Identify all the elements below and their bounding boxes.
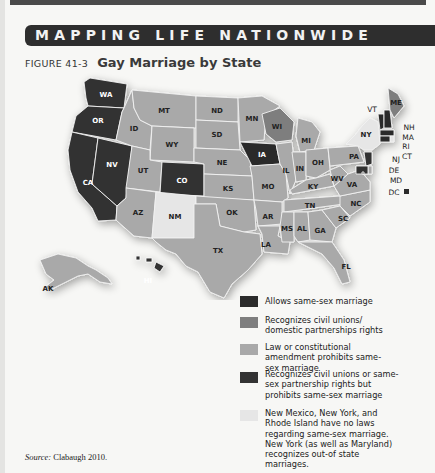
state-label-il: IL <box>282 167 290 175</box>
state-label-mt: MT <box>158 107 170 115</box>
state-label-or: OR <box>92 117 104 125</box>
state-label-ny: NY <box>361 131 373 139</box>
state-label-nj: NJ <box>392 155 400 164</box>
state-label-ca: CA <box>83 179 94 187</box>
state-ma <box>380 130 394 136</box>
state-ct <box>380 136 390 142</box>
state-label-mi: MI <box>301 137 311 145</box>
legend-label: Allows same-sex marriage <box>265 296 430 306</box>
state-label-wi: WI <box>272 123 282 131</box>
state-label-wv: WV <box>330 175 344 183</box>
top-bar <box>10 0 426 5</box>
figure-number: FIGURE 41-3 <box>25 58 88 69</box>
state-label-id: ID <box>130 125 139 133</box>
state-label-mo: MO <box>262 183 275 191</box>
legend-swatch <box>240 344 258 355</box>
state-ri <box>390 136 394 142</box>
state-label-fl: FL <box>341 263 351 271</box>
state-label-sc: SC <box>338 215 348 223</box>
dc-marker <box>404 189 409 194</box>
state-label-ok: OK <box>226 209 238 217</box>
state-label-az: AZ <box>133 209 144 217</box>
state-label-ky: KY <box>308 183 319 191</box>
state-label-ia: IA <box>258 151 267 159</box>
state-label-ri: RI <box>402 142 409 151</box>
source-note: Source: Clabaugh 2010. <box>25 452 107 462</box>
legend-label: Recognizes civil unions or same-sex part… <box>265 369 405 400</box>
state-label-ks: KS <box>223 185 233 193</box>
state-label-nh: NH <box>403 123 414 132</box>
state-de <box>368 166 372 174</box>
state-label-wa: WA <box>100 91 113 99</box>
state-label-me: ME <box>390 99 402 107</box>
state-label-nm: NM <box>169 213 182 221</box>
state-label-ak: AK <box>43 285 54 293</box>
state-nh <box>384 110 392 128</box>
state-label-de: DE <box>389 166 400 175</box>
source-text: Clabaugh 2010. <box>53 452 107 462</box>
state-label-ms: MS <box>281 225 293 233</box>
state-nj <box>364 152 372 166</box>
state-label-ma: MA <box>402 133 414 142</box>
legend-swatch <box>240 296 258 307</box>
legend-label: Recognizes civil unions/ domestic partne… <box>265 315 385 336</box>
state-label-ut: UT <box>138 167 149 175</box>
state-label-tn: TN <box>305 202 316 210</box>
state-label-nd: ND <box>211 107 223 115</box>
legend-label: New Mexico, New York, and Rhode Island h… <box>265 408 395 470</box>
state-label-la: LA <box>261 241 271 249</box>
legend-swatch <box>240 372 258 383</box>
state-dc <box>362 172 364 174</box>
state-label-in: IN <box>296 165 305 173</box>
legend-swatch <box>240 410 258 421</box>
state-label-nv: NV <box>106 161 118 169</box>
state-label-dc: DC <box>388 188 399 197</box>
state-label-pa: PA <box>349 153 359 161</box>
state-label-ar: AR <box>263 213 274 221</box>
figure-title: FIGURE 41-3 Gay Marriage by State <box>25 52 261 71</box>
state-label-al: AL <box>297 225 307 233</box>
state-hi <box>136 256 164 272</box>
state-label-wy: WY <box>166 141 180 149</box>
state-label-sd: SD <box>212 131 223 139</box>
state-label-ct: CT <box>402 152 412 161</box>
state-label-ga: GA <box>314 227 326 235</box>
legend-swatch <box>240 317 258 328</box>
state-mi <box>296 118 320 152</box>
state-label-md: MD <box>390 176 402 185</box>
state-label-tx: TX <box>213 247 224 255</box>
state-label-co: CO <box>176 177 187 185</box>
state-label-nc: NC <box>351 200 362 208</box>
section-banner: MAPPING LIFE NATIONWIDE <box>25 25 435 46</box>
state-label-va: VA <box>347 181 358 189</box>
source-label: Source: <box>25 452 51 462</box>
us-map: WAORCANVIDMTWYUTCOAZNMNDSDNEKSOKTXMNIAMO… <box>0 70 426 300</box>
state-label-ne: NE <box>217 159 228 167</box>
state-label-vt: VT <box>367 105 377 114</box>
figure-name: Gay Marriage by State <box>97 55 261 70</box>
state-label-oh: OH <box>312 159 324 167</box>
state-label-hi: HI <box>144 277 152 285</box>
state-label-mn: MN <box>246 115 259 123</box>
